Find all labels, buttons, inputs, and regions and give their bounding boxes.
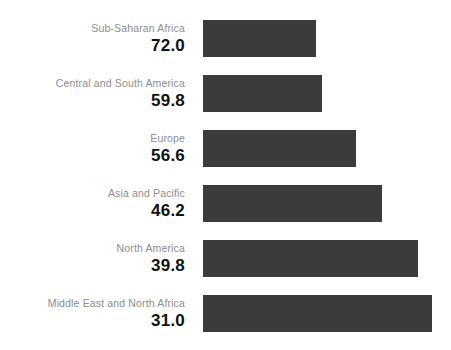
table-row: Asia and Pacific 46.2 [0,185,451,222]
bar-track [203,295,432,332]
category-label: Sub-Saharan Africa [91,22,185,35]
table-row: Central and South America 59.8 [0,75,451,112]
row-label-group: Central and South America 59.8 [0,70,185,117]
row-label-group: Europe 56.6 [0,125,185,172]
bar-track [203,185,382,222]
category-label: North America [117,242,185,255]
category-label: Europe [150,132,185,145]
row-label-group: Sub-Saharan Africa 72.0 [0,15,185,62]
table-row: Middle East and North Africa 31.0 [0,295,451,332]
bar-fill [203,295,432,332]
bar-track [203,240,418,277]
bar-fill [203,75,322,112]
value-label: 46.2 [151,201,185,221]
value-label: 31.0 [151,311,185,331]
bar-track [203,130,356,167]
table-row: Europe 56.6 [0,130,451,167]
bar-fill [203,185,382,222]
row-label-group: Middle East and North Africa 31.0 [0,290,185,337]
row-label-group: Asia and Pacific 46.2 [0,180,185,227]
row-label-group: North America 39.8 [0,235,185,282]
value-label: 39.8 [151,256,185,276]
bar-fill [203,240,418,277]
category-label: Middle East and North Africa [48,297,185,310]
bar-fill [203,130,356,167]
bar-track [203,75,322,112]
table-row: North America 39.8 [0,240,451,277]
value-label: 56.6 [151,146,185,166]
value-label: 72.0 [151,36,185,56]
bar-track [203,20,316,57]
category-label: Asia and Pacific [108,187,185,200]
bar-chart: Sub-Saharan Africa 72.0 Central and Sout… [0,0,451,350]
value-label: 59.8 [151,91,185,111]
table-row: Sub-Saharan Africa 72.0 [0,20,451,57]
category-label: Central and South America [56,77,185,90]
bar-fill [203,20,316,57]
